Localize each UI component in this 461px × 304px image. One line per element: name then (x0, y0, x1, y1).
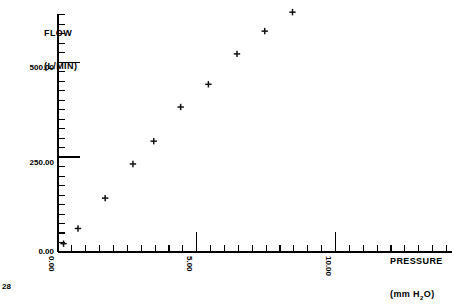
data-point (130, 161, 136, 167)
data-point (60, 240, 66, 246)
y-tick-label-500: 500.00 (6, 63, 54, 72)
data-point (151, 138, 157, 144)
x-tick-label-10: 10.00 (324, 256, 333, 276)
data-points (60, 0, 338, 247)
data-point (205, 81, 211, 87)
y-axis-title-line1: FLOW (44, 28, 77, 39)
x-axis-unit-prefix: (mm H (390, 289, 420, 299)
data-point (289, 9, 295, 15)
data-point (262, 28, 268, 34)
y-tick-label-0: 0.00 (6, 247, 54, 256)
data-point (234, 51, 240, 57)
data-point (177, 104, 183, 110)
x-axis-unit-suffix: O) (424, 289, 435, 299)
tick-marks (58, 15, 447, 252)
x-axis-title-line2: (mm H2O) (390, 289, 443, 304)
x-tick-label-5: 5.00 (185, 256, 194, 272)
page-number: 28 (2, 282, 11, 291)
x-axis-title: PRESSURE (mm H2O) (390, 234, 443, 304)
y-tick-label-250: 250.00 (6, 158, 54, 167)
x-tick-label-0: 0.00 (47, 256, 56, 272)
axes-group (58, 14, 452, 252)
data-point (75, 225, 81, 231)
y-axis-title: FLOW (L/MIN) (44, 6, 77, 94)
x-axis-title-line1: PRESSURE (390, 256, 443, 267)
data-point (102, 195, 108, 201)
